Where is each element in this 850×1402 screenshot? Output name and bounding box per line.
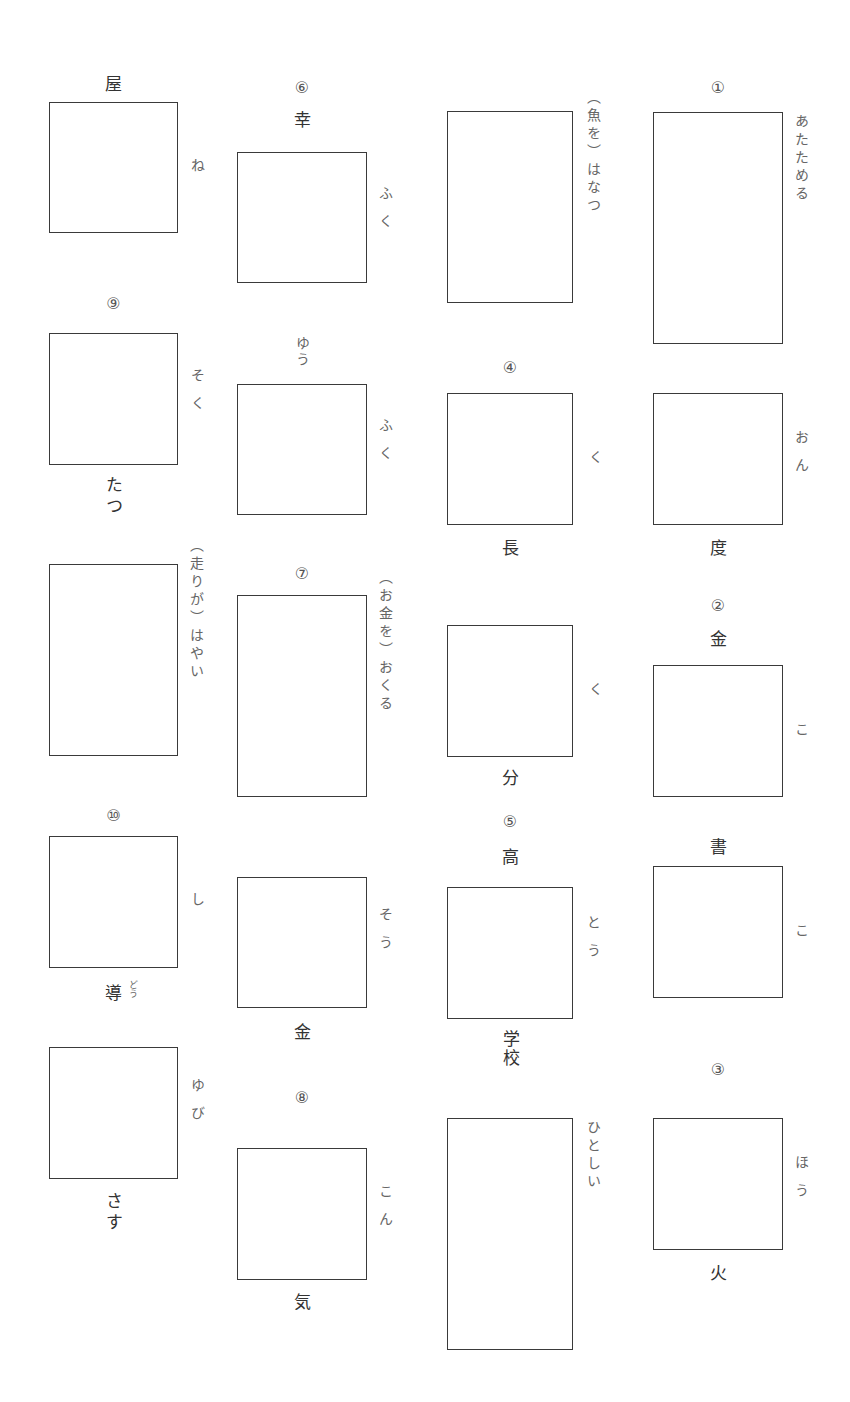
question-number: ④ [447, 360, 573, 376]
answer-box-col3-1[interactable] [447, 111, 573, 303]
reading-hint: おん [794, 430, 808, 486]
reading-hint: とう [586, 915, 600, 971]
reading-hint: こ [794, 722, 808, 740]
answer-box-q4[interactable] [447, 393, 573, 525]
kanji-label: 度 [653, 540, 783, 557]
kanji-label: 高 [447, 849, 573, 866]
question-number: ⑧ [237, 1090, 367, 1106]
kanji-label: 長 [447, 540, 573, 557]
question-number: ② [653, 598, 783, 614]
kanji-label: 学校 [501, 1030, 518, 1068]
answer-box-q6b[interactable] [237, 384, 367, 515]
kanji-label: 火 [653, 1265, 783, 1282]
answer-box-q7b[interactable] [237, 877, 367, 1008]
kanji-label: 幸 [237, 112, 367, 129]
reading-hint: ゆび [190, 1078, 204, 1134]
reading-hint: ひとしい [586, 1120, 600, 1192]
reading-hint: ふく [378, 418, 392, 474]
answer-box-col1-5[interactable] [49, 1047, 178, 1179]
reading-hint: く [588, 450, 602, 468]
answer-box-q3[interactable] [653, 1118, 783, 1250]
reading-hint: あたためる [794, 114, 808, 204]
answer-box-q5[interactable] [447, 887, 573, 1019]
question-number: ③ [653, 1062, 783, 1078]
reading-hint: こ [794, 923, 808, 941]
reading-hint: ね [190, 158, 204, 176]
answer-box-q6[interactable] [237, 152, 367, 283]
answer-box-q10[interactable] [49, 836, 178, 968]
answer-box-q7[interactable] [237, 595, 367, 797]
question-number: ① [653, 80, 783, 96]
answer-box-q9[interactable] [49, 333, 178, 465]
answer-box-q2[interactable] [653, 665, 783, 797]
ruby-reading: どう [128, 980, 137, 998]
answer-box-q1b[interactable] [653, 393, 783, 525]
reading-hint: （お金を）おくる [378, 570, 392, 714]
answer-box-col3-5[interactable] [447, 1118, 573, 1350]
question-number: ⑤ [447, 814, 573, 830]
reading-hint: そう [378, 907, 392, 963]
answer-box-col1-3[interactable] [49, 564, 178, 756]
kanji-label: 金 [653, 631, 783, 648]
reading-hint: そく [190, 368, 204, 424]
question-number: ⑩ [49, 808, 178, 824]
kanji-label: 屋 [49, 76, 178, 93]
kanji-label: 金 [237, 1024, 367, 1041]
reading-hint: ほう [794, 1155, 808, 1211]
reading-hint: （魚を）はなつ [586, 90, 600, 216]
answer-box-q8[interactable] [237, 1148, 367, 1280]
answer-box-q4b[interactable] [447, 625, 573, 757]
kanji-label: 気 [237, 1294, 367, 1311]
answer-box-q2b[interactable] [653, 866, 783, 998]
reading-hint: （走りが）はやい [189, 538, 203, 682]
kanji-label: 導 [98, 985, 128, 1002]
question-number: ⑨ [49, 296, 178, 312]
kanji-label: 分 [447, 770, 573, 787]
answer-box-col1-1[interactable] [49, 102, 178, 233]
reading-hint: し [190, 892, 204, 910]
question-number: ⑦ [237, 566, 367, 582]
reading-hint: ふく [378, 186, 392, 242]
reading-hint: こん [378, 1184, 392, 1240]
question-number: ⑥ [237, 80, 367, 96]
kanji-label: 書 [653, 839, 783, 856]
reading-hint: ゆう [295, 336, 309, 368]
kana-label: たつ [104, 476, 121, 518]
answer-box-q1[interactable] [653, 112, 783, 344]
reading-hint: く [588, 682, 602, 700]
kana-label: さす [104, 1192, 121, 1234]
